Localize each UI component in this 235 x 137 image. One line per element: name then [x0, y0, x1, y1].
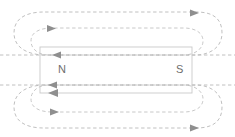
field-line-top-inner — [31, 28, 203, 55]
arrowhead-magnet-top — [52, 52, 61, 59]
field-line-top-outer — [14, 12, 222, 55]
south-pole-label: S — [176, 64, 184, 75]
arrowhead-bottom-inner — [50, 109, 59, 116]
north-pole-label: N — [58, 64, 66, 75]
arrowhead-bottom-outer — [190, 125, 199, 132]
arrowhead-magnet-middle — [48, 82, 57, 89]
field-line-bottom-outer — [14, 85, 222, 128]
field-lines-canvas — [0, 0, 235, 137]
arrowhead-top-outer — [190, 10, 199, 17]
magnetic-field-diagram: N S — [0, 0, 235, 137]
field-line-bottom-inner — [31, 85, 203, 112]
arrowhead-magnet-bottom — [48, 89, 58, 97]
arrowhead-top-inner — [47, 25, 56, 32]
